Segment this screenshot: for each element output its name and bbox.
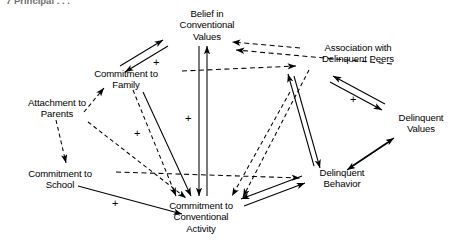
edge-behavior-to-values xyxy=(352,138,394,166)
node-commitment-school: Commitment to School xyxy=(8,168,112,191)
edge-parents-to-school xyxy=(56,120,66,163)
sign-family-belief: + xyxy=(153,57,159,68)
node-commitment-family: Commitment to Family xyxy=(74,68,178,91)
edge-behavior-to-belief xyxy=(288,74,314,166)
node-attachment-parents: Attachment to Parents xyxy=(8,97,106,120)
node-commitment-conventional-activity: Commitment to Conventional Activity xyxy=(149,200,253,234)
edge-values-to-behavior xyxy=(347,142,389,170)
node-belief-conventional-values: Belief in Conventional Values xyxy=(151,8,263,42)
edge-family-to-activity-dashed xyxy=(133,90,176,196)
sign-peers-values: + xyxy=(350,94,356,105)
edge-peers-to-belief xyxy=(232,42,300,48)
sign-family-activity: + xyxy=(134,128,140,139)
edge-school-to-behavior xyxy=(116,172,300,178)
edge-family-to-activity xyxy=(143,92,191,196)
node-association-delinquent-peers: Association with Delinquent Peers xyxy=(302,42,414,65)
sign-school-activity: + xyxy=(112,198,118,209)
edge-values-to-activity xyxy=(232,92,290,196)
sign-belief-activity: + xyxy=(185,113,191,124)
node-delinquent-values: Delinquent Values xyxy=(386,112,451,135)
path-diagram: 7 Principal . . . xyxy=(0,0,451,246)
edge-values-to-peers xyxy=(333,76,385,104)
node-delinquent-behavior: Delinquent Behavior xyxy=(306,167,378,190)
edge-belief-to-behavior xyxy=(294,76,320,168)
